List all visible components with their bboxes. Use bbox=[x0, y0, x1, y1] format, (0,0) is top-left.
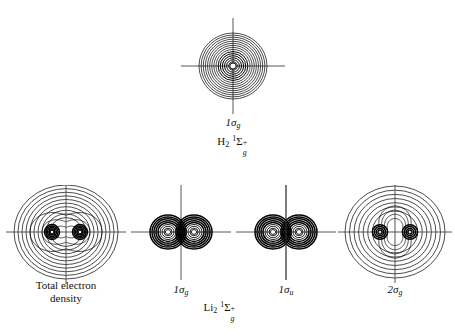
top-molecule-formula: H2 bbox=[217, 135, 229, 147]
bottom-molecule-formula: Li2 bbox=[203, 301, 217, 313]
panel-caption-symbol: 1σ bbox=[226, 116, 237, 128]
orbital-panel-li2-2sg: 2σg bbox=[338, 185, 452, 313]
orbital-panel-li2-1su: 1σu bbox=[234, 185, 338, 313]
contour-plot-li2-total bbox=[6, 185, 126, 285]
top-molecule-term-sub: g bbox=[243, 148, 247, 157]
contour-plot-li2-2sg bbox=[338, 185, 452, 285]
panel-caption-li2-1su: 1σu bbox=[234, 283, 338, 297]
panel-caption-li2-total: Total electrondensity bbox=[6, 279, 126, 305]
bottom-molecule-term-sub: g bbox=[231, 314, 235, 323]
panel-caption-li2-2sg: 2σg bbox=[338, 283, 452, 297]
panel-caption-symbol: 1σ bbox=[279, 283, 290, 295]
panel-caption-li2-1sg: 1σg bbox=[129, 283, 233, 297]
orbital-panel-li2-1sg: 1σg bbox=[129, 185, 233, 313]
panel-caption-line1: Total electron bbox=[36, 279, 97, 291]
panel-caption-line2: density bbox=[50, 292, 82, 304]
contour-plot-h2-1sg bbox=[177, 18, 289, 118]
orbital-panel-li2-total: Total electrondensity bbox=[6, 185, 126, 313]
panel-caption-subscript: u bbox=[289, 288, 293, 297]
contour-plot-li2-1sg bbox=[129, 185, 233, 285]
panel-caption-subscript: g bbox=[398, 288, 402, 297]
bottom-molecule-term-sup: + bbox=[231, 304, 235, 313]
top-molecule-term-sup: + bbox=[243, 138, 247, 147]
panel-caption-subscript: g bbox=[184, 288, 188, 297]
bottom-molecule-label: Li21Σg+ bbox=[155, 300, 285, 315]
panel-caption-subscript: g bbox=[236, 121, 240, 130]
top-molecule-label: H21Σg+ bbox=[177, 134, 289, 149]
orbital-panel-h2-1sg: 1σg bbox=[177, 18, 289, 146]
panel-caption-symbol: 2σ bbox=[388, 283, 399, 295]
panel-caption-h2-1sg: 1σg bbox=[177, 116, 289, 130]
panel-caption-symbol: 1σ bbox=[174, 283, 185, 295]
contour-plot-li2-1su bbox=[234, 185, 338, 285]
